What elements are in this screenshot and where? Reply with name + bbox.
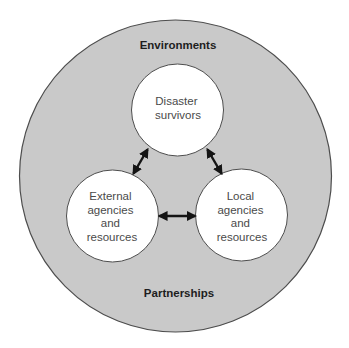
node-external-agencies: External agencies and resources	[67, 170, 159, 262]
partnership-diagram: Environments Partnerships Disaster survi…	[0, 0, 349, 348]
node-label-line: survivors	[155, 109, 201, 121]
partnerships-label: Partnerships	[144, 287, 214, 299]
environments-label: Environments	[140, 39, 217, 51]
node-label-line: resources	[217, 231, 268, 243]
node-label-line: and	[101, 217, 120, 229]
node-label-line: agencies	[217, 204, 263, 216]
node-label-line: resources	[87, 231, 138, 243]
node-label-line: agencies	[87, 204, 133, 216]
node-label-line: and	[231, 217, 250, 229]
node-label-line: Local	[227, 190, 255, 202]
node-disaster-survivors: Disaster survivors	[132, 64, 224, 156]
node-local-agencies: Local agencies and resources	[196, 169, 288, 261]
node-label-line: External	[89, 190, 131, 202]
node-label-line: Disaster	[155, 95, 197, 107]
